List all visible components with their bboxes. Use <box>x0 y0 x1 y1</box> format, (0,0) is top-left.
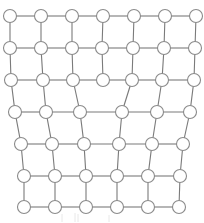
graph-node <box>66 42 79 55</box>
graph-node <box>40 106 53 119</box>
graph-node <box>113 138 126 151</box>
graph-node <box>156 74 169 87</box>
graph-node <box>177 138 190 151</box>
graph-node <box>78 138 91 151</box>
graph-node <box>9 106 22 119</box>
graph-node <box>80 170 93 183</box>
graph-node <box>80 201 93 214</box>
graph-node <box>5 74 18 87</box>
graph-node <box>190 10 203 23</box>
graph-node <box>159 10 172 23</box>
graph-node <box>126 74 139 87</box>
graph-node <box>18 170 31 183</box>
graph-node <box>158 42 171 55</box>
graph-node <box>127 42 140 55</box>
graph-node <box>4 10 17 23</box>
scan-artifacts <box>62 213 109 222</box>
graph-node <box>18 201 31 214</box>
graph-node <box>4 42 17 55</box>
graph-node <box>146 138 159 151</box>
graph-node <box>173 201 186 214</box>
grid-graph-diagram <box>0 0 204 223</box>
graph-node <box>116 106 129 119</box>
graph-node <box>188 74 201 87</box>
graph-node <box>111 201 124 214</box>
graph-node <box>96 42 109 55</box>
graph-node <box>35 10 48 23</box>
graph-node <box>35 42 48 55</box>
graph-node <box>97 10 110 23</box>
graph-node <box>46 138 59 151</box>
graph-node <box>74 106 87 119</box>
graph-node <box>49 201 62 214</box>
graph-node <box>37 74 50 87</box>
graph-node <box>128 10 141 23</box>
graph-node <box>184 106 197 119</box>
graph-node <box>189 42 202 55</box>
graph-node <box>151 106 164 119</box>
graph-node <box>67 74 80 87</box>
graph-node <box>66 10 79 23</box>
graph-node <box>15 138 28 151</box>
graph-node <box>49 170 62 183</box>
graph-node <box>142 201 155 214</box>
graph-node <box>97 74 110 87</box>
graph-node <box>142 170 155 183</box>
graph-node <box>174 170 187 183</box>
graph-node <box>111 170 124 183</box>
